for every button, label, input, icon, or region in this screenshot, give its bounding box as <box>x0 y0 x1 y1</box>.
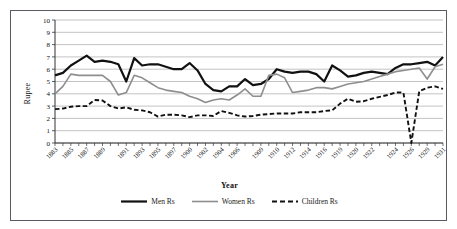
x-axis-tick-label: 1906 <box>227 145 242 160</box>
chart-figure-frame: 0123456789101883188518871889189118931895… <box>10 10 447 221</box>
y-axis-tick-label: 6 <box>47 66 51 74</box>
x-axis-tick-label: 1914 <box>298 145 313 160</box>
y-axis-tick-label: 4 <box>47 90 51 98</box>
y-axis-tick-label: 2 <box>47 115 51 123</box>
x-axis-tick-label: 1891 <box>116 146 130 160</box>
x-axis-tick-label: 1909 <box>250 145 265 160</box>
x-axis-tick-label: 1902 <box>195 146 209 160</box>
legend-swatch-women <box>192 198 218 205</box>
x-axis-tick-label: 1929 <box>417 145 432 160</box>
x-axis-tick-label: 1895 <box>147 145 162 160</box>
x-axis-tick-label: 1897 <box>163 145 178 160</box>
x-axis-title: Year <box>11 181 448 190</box>
x-axis-tick-label: 1885 <box>60 145 75 160</box>
x-axis-tick-label: 1900 <box>179 145 194 160</box>
x-axis-tick-label: 1889 <box>92 145 107 160</box>
x-axis-tick-label: 1926 <box>401 145 416 160</box>
legend-label-children: Children Rs <box>302 197 338 206</box>
x-axis-tick-label: 1912 <box>282 146 296 160</box>
legend-swatch-children <box>272 198 298 205</box>
y-axis-tick-label: 3 <box>47 103 51 111</box>
y-axis-tick-label: 0 <box>47 140 51 148</box>
chart-legend: Men Rs Women Rs Children Rs <box>11 197 448 206</box>
x-axis-tick-label: 1887 <box>76 145 91 160</box>
x-axis-tick-label: 1920 <box>345 145 360 160</box>
legend-item-women: Women Rs <box>192 197 255 206</box>
x-axis-tick-label: 1910 <box>266 145 281 160</box>
x-axis-tick-label: 1919 <box>329 145 344 160</box>
y-axis-title: Rupee <box>23 64 32 124</box>
legend-item-children: Children Rs <box>272 197 338 206</box>
x-axis-tick-label: 1893 <box>132 145 147 160</box>
legend-item-men: Men Rs <box>121 197 175 206</box>
x-axis-tick-label: 1904 <box>211 145 226 160</box>
x-axis-tick-label: 1916 <box>314 145 329 160</box>
legend-label-men: Men Rs <box>151 197 175 206</box>
y-axis-tick-label: 1 <box>47 127 51 135</box>
x-axis-tick-label: 1924 <box>385 145 400 160</box>
legend-swatch-men <box>121 198 147 205</box>
y-axis-tick-label: 10 <box>43 17 51 25</box>
x-axis-tick-label: 1931 <box>432 146 446 160</box>
chart-plot-area: 0123456789101883188518871889189118931895… <box>11 11 448 222</box>
y-axis-tick-label: 5 <box>47 78 51 86</box>
y-axis-tick-label: 8 <box>47 41 51 49</box>
y-axis-tick-label: 7 <box>47 54 51 62</box>
x-axis-tick-label: 1922 <box>361 146 375 160</box>
partial-title <box>0 0 457 9</box>
y-axis-tick-label: 9 <box>47 29 51 37</box>
series-line-children-rs <box>55 86 443 143</box>
legend-label-women: Women Rs <box>222 197 255 206</box>
